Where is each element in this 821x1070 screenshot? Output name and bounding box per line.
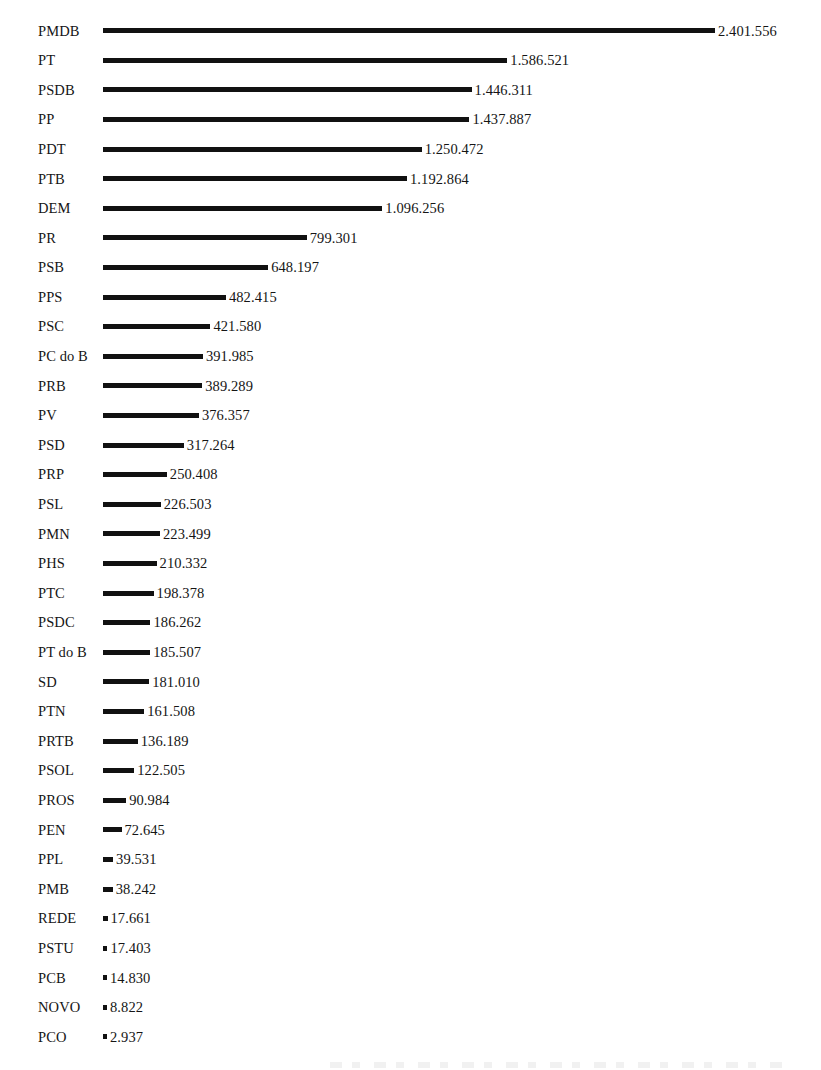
bar-value-label: 2.937 xyxy=(110,1030,143,1045)
bar-category-label: PSDC xyxy=(38,615,98,630)
bar xyxy=(103,324,210,329)
bar-track: 226.503 xyxy=(103,490,821,520)
bar-category-label: PSC xyxy=(38,319,98,334)
bar xyxy=(103,975,107,980)
bar xyxy=(103,176,407,181)
bar-track: 1.446.311 xyxy=(103,75,821,105)
bar-track: 376.357 xyxy=(103,401,821,431)
bar-category-label: PSL xyxy=(38,497,98,512)
bar-track: 14.830 xyxy=(103,963,821,993)
bar-value-label: 8.822 xyxy=(110,1000,143,1015)
bar-category-label: PSDB xyxy=(38,83,98,98)
bar xyxy=(103,798,126,803)
bar-category-label: PP xyxy=(38,112,98,127)
bar-row: PMDB2.401.556 xyxy=(0,16,821,46)
bar-value-label: 17.403 xyxy=(110,941,150,956)
bar xyxy=(103,1034,107,1039)
bar xyxy=(103,383,202,388)
bar xyxy=(103,147,422,152)
bar-value-label: 185.507 xyxy=(153,645,201,660)
bar-category-label: PSD xyxy=(38,438,98,453)
bar-row: PSOL122.505 xyxy=(0,756,821,786)
bar-category-label: PT do B xyxy=(38,645,98,660)
bar-track: 39.531 xyxy=(103,845,821,875)
bar-category-label: PDT xyxy=(38,142,98,157)
bar-row: PSD317.264 xyxy=(0,430,821,460)
bar-row: PTB1.192.864 xyxy=(0,164,821,194)
page-edge-artifact xyxy=(330,1062,790,1068)
bar-value-label: 482.415 xyxy=(229,290,277,305)
bar-row: REDE17.661 xyxy=(0,904,821,934)
bar xyxy=(103,206,382,211)
bar-category-label: PC do B xyxy=(38,349,98,364)
bar-row: PSDC186.262 xyxy=(0,608,821,638)
bar-row: PSTU17.403 xyxy=(0,933,821,963)
bar-track: 1.096.256 xyxy=(103,194,821,224)
bar-category-label: DEM xyxy=(38,201,98,216)
bar-row: PT do B185.507 xyxy=(0,637,821,667)
bar-row: PT1.586.521 xyxy=(0,46,821,76)
bar-category-label: PT xyxy=(38,53,98,68)
bar-category-label: PMDB xyxy=(38,24,98,39)
bar-category-label: PSOL xyxy=(38,763,98,778)
bar-value-label: 14.830 xyxy=(110,971,150,986)
bar-category-label: NOVO xyxy=(38,1000,98,1015)
bar xyxy=(103,531,160,536)
bar-value-label: 648.197 xyxy=(271,260,319,275)
bar-row: SD181.010 xyxy=(0,667,821,697)
bar-track: 186.262 xyxy=(103,608,821,638)
bar xyxy=(103,916,108,921)
bar-category-label: PEN xyxy=(38,823,98,838)
bar-value-label: 1.096.256 xyxy=(385,201,444,216)
bar-track: 17.403 xyxy=(103,933,821,963)
bar-value-label: 198.378 xyxy=(157,586,205,601)
bar-track: 1.192.864 xyxy=(103,164,821,194)
bar-row: PP1.437.887 xyxy=(0,105,821,135)
bar-value-label: 226.503 xyxy=(164,497,212,512)
bar-row: PROS90.984 xyxy=(0,785,821,815)
bar-category-label: PROS xyxy=(38,793,98,808)
bar-row: PSC421.580 xyxy=(0,312,821,342)
bar-category-label: PR xyxy=(38,231,98,246)
bar xyxy=(103,502,161,507)
bar-category-label: PMN xyxy=(38,527,98,542)
bar-value-label: 389.289 xyxy=(205,379,253,394)
bar-row: NOVO8.822 xyxy=(0,993,821,1023)
bar xyxy=(103,117,469,122)
bar-category-label: REDE xyxy=(38,911,98,926)
bar-category-label: PSB xyxy=(38,260,98,275)
bar-row: PPL39.531 xyxy=(0,845,821,875)
bar-track: 38.242 xyxy=(103,874,821,904)
bar-value-label: 1.250.472 xyxy=(425,142,484,157)
bar-track: 161.508 xyxy=(103,697,821,727)
bar-track: 223.499 xyxy=(103,519,821,549)
bar-category-label: PV xyxy=(38,408,98,423)
bar-track: 2.937 xyxy=(103,1022,821,1052)
bar-value-label: 161.508 xyxy=(147,704,195,719)
bar-category-label: PPS xyxy=(38,290,98,305)
bar-rows-container: PMDB2.401.556PT1.586.521PSDB1.446.311PP1… xyxy=(0,16,821,1052)
bar-row: PRTB136.189 xyxy=(0,726,821,756)
bar xyxy=(103,946,107,951)
bar-track: 210.332 xyxy=(103,549,821,579)
bar-track: 72.645 xyxy=(103,815,821,845)
bar xyxy=(103,620,150,625)
bar-row: PHS210.332 xyxy=(0,549,821,579)
bar-category-label: PPL xyxy=(38,852,98,867)
bar-category-label: PSTU xyxy=(38,941,98,956)
bar xyxy=(103,827,122,832)
bar-category-label: SD xyxy=(38,675,98,690)
bar xyxy=(103,443,184,448)
bar-value-label: 72.645 xyxy=(125,823,165,838)
bar-value-label: 39.531 xyxy=(116,852,156,867)
bar xyxy=(103,295,226,300)
bar xyxy=(103,354,203,359)
bar-row: PRP250.408 xyxy=(0,460,821,490)
bar-value-label: 181.010 xyxy=(152,675,200,690)
bar-value-label: 376.357 xyxy=(202,408,250,423)
bar-category-label: PCO xyxy=(38,1030,98,1045)
bar-row: PMN223.499 xyxy=(0,519,821,549)
bar-value-label: 1.437.887 xyxy=(472,112,531,127)
bar-track: 181.010 xyxy=(103,667,821,697)
bar-row: PCO2.937 xyxy=(0,1022,821,1052)
